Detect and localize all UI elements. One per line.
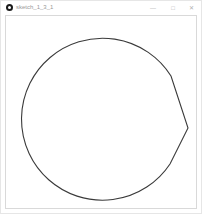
circle-outline-with-spike — [21, 38, 188, 200]
app-window: sketch_1_3_1 — □ ✕ — [0, 0, 202, 214]
sketch-canvas[interactable] — [5, 15, 197, 209]
drawn-shape — [1, 1, 202, 214]
